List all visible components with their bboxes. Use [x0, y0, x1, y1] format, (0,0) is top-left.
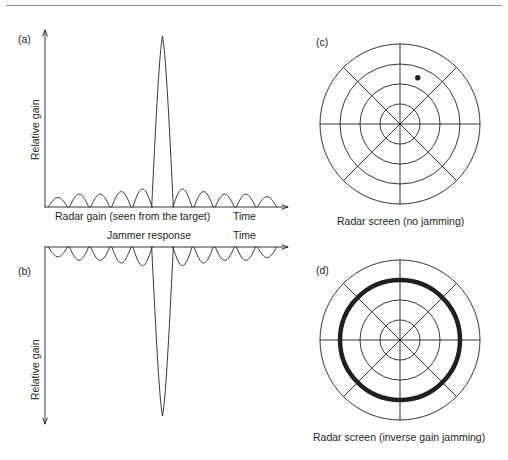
panel-a-sidelobe-2	[91, 194, 110, 207]
panel-b-sidelobe-9	[257, 247, 276, 258]
panel-d-spoke-1	[343, 283, 456, 396]
panel-c-spoke-3	[343, 67, 456, 180]
panel-a-x-axis-arrowhead	[282, 205, 288, 210]
panel-c-range-ring-2	[340, 64, 460, 184]
panel-b-sidelobe-5	[173, 247, 192, 266]
panel-b-sidelobe-7	[215, 247, 234, 260]
panel-d-range-ring-0	[380, 320, 420, 360]
panel-b-sidelobe-4	[133, 247, 152, 266]
panel-b-time-label: Time	[233, 230, 256, 242]
figure-root: (a) Relative gain Radar gain (seen from …	[0, 0, 508, 460]
panel-a-sidelobe-6	[194, 192, 213, 207]
panel-a-tag: (a)	[18, 33, 31, 45]
panel-c-range-ring-0	[380, 104, 420, 144]
panel-a-sidelobe-4	[133, 189, 152, 207]
panel-d-spoke-3	[343, 283, 456, 396]
panel-a-time-label: Time	[233, 211, 256, 223]
panel-a-x-axis-caption: Radar gain (seen from the target)	[55, 211, 210, 223]
panel-b-plot	[43, 245, 288, 424]
panel-b-y-axis-arrowhead	[43, 418, 48, 424]
panel-a-plot	[43, 30, 288, 209]
panel-b-x-axis-arrowhead	[282, 245, 288, 250]
panel-b-main-null	[152, 247, 174, 416]
panel-a-y-axis-label: Relative gain	[29, 99, 41, 160]
panel-c-radar	[320, 44, 480, 204]
panel-c-tag: (c)	[316, 36, 328, 48]
panel-b-tag: (b)	[18, 265, 31, 277]
panel-b-sidelobe-3	[112, 247, 131, 263]
panel-a-main-lobe	[152, 36, 174, 207]
panel-a-sidelobe-0	[48, 198, 67, 207]
panel-d-radar	[320, 260, 480, 420]
panel-d-jamming-ring	[340, 280, 460, 400]
panel-c-spoke-1	[343, 67, 456, 180]
panel-c-caption: Radar screen (no jamming)	[337, 216, 464, 228]
panel-a-sidelobe-5	[173, 189, 192, 207]
panel-a-y-axis-arrowhead	[43, 30, 48, 36]
panel-b-sidelobe-6	[194, 247, 213, 263]
panel-c-target-blip-0	[415, 75, 420, 80]
panel-c-range-ring-1	[360, 84, 440, 164]
panel-a-sidelobe-3	[112, 192, 131, 207]
panel-a-sidelobe-1	[69, 194, 88, 207]
panel-b-sidelobe-2	[91, 247, 110, 260]
panel-a-sidelobe-8	[236, 194, 255, 207]
panel-b-x-axis-caption: Jammer response	[107, 230, 191, 242]
panel-c-range-ring-3	[320, 44, 480, 204]
panel-b-y-axis-label: Relative gain	[29, 339, 41, 400]
top-divider-rule	[6, 5, 502, 6]
panel-d-range-ring-3	[320, 260, 480, 420]
panel-a-sidelobe-9	[257, 197, 276, 207]
panel-b-sidelobe-8	[236, 247, 255, 260]
panel-a-sidelobe-7	[215, 194, 234, 207]
panel-d-tag: (d)	[316, 264, 329, 276]
panel-d-range-ring-1	[360, 300, 440, 380]
panel-b-sidelobe-0	[48, 247, 67, 257]
panel-d-caption: Radar screen (inverse gain jamming)	[313, 432, 485, 444]
panel-b-sidelobe-1	[69, 247, 88, 260]
